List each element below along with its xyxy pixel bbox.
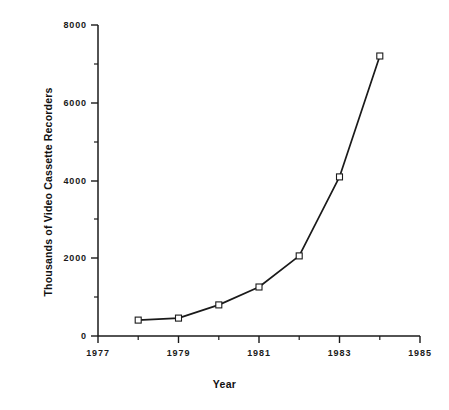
chart-container: 8000 6000 4000 2000 0 1977 1979 1981 198… [0, 0, 449, 410]
x-tick-label-1981: 1981 [247, 348, 271, 358]
x-tick-label-1983: 1983 [328, 348, 352, 358]
data-point-1982 [296, 253, 302, 259]
y-tick-label-8000: 8000 [47, 20, 87, 30]
y-axis-title: Thousands of Video Cassette Recorders [42, 42, 54, 342]
chart-plot-area [0, 0, 449, 410]
x-tick-label-1985: 1985 [408, 348, 432, 358]
data-point-1983 [337, 174, 343, 180]
data-point-1978 [135, 317, 141, 323]
x-tick-label-1977: 1977 [86, 348, 110, 358]
series-line-video-cassette-recorders [138, 56, 380, 320]
y-axis-major-ticks [91, 25, 98, 336]
series-markers [135, 53, 383, 323]
data-point-1981 [256, 284, 262, 290]
x-tick-label-1979: 1979 [167, 348, 191, 358]
data-point-1980 [216, 302, 222, 308]
x-axis-title: Year [0, 378, 449, 390]
data-point-1979 [176, 315, 182, 321]
data-point-1984 [377, 53, 383, 59]
x-axis-major-ticks [98, 336, 420, 343]
